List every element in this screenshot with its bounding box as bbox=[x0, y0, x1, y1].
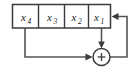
cell-label-x1-subscript: 1 bbox=[101, 17, 105, 26]
cell-label-x2-subscript: 2 bbox=[78, 17, 82, 26]
cell-label-x4-base: x bbox=[20, 11, 26, 23]
lfsr-diagram: x 4 x 3 x 2 x 1 bbox=[0, 0, 138, 75]
feedback-arrowhead-icon bbox=[112, 13, 119, 20]
feedback-wire-adder-to-x1 bbox=[110, 17, 127, 58]
lfsr-figure: x 4 x 3 x 2 x 1 bbox=[0, 0, 138, 75]
cell-label-x2-base: x bbox=[71, 11, 77, 23]
cell-label-x3-subscript: 3 bbox=[53, 17, 58, 26]
tap-wire-x4-to-adder bbox=[25, 28, 90, 57]
cell-label-x3-base: x bbox=[46, 11, 52, 23]
cell-label-x4-subscript: 4 bbox=[28, 17, 32, 26]
cell-label-x1-base: x bbox=[93, 11, 99, 23]
output-arrowhead-icon bbox=[98, 42, 105, 49]
tap-arrowhead-icon bbox=[86, 54, 93, 61]
